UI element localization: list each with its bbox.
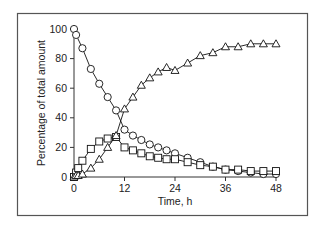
- y-tick-label: 100: [49, 23, 67, 35]
- y-tick-label: 20: [55, 141, 67, 153]
- x-tick-label: 48: [270, 182, 282, 194]
- square-marker: [273, 168, 280, 175]
- square-marker: [75, 165, 82, 172]
- circle-marker: [155, 144, 162, 151]
- circle-marker: [146, 141, 153, 148]
- square-marker: [222, 166, 229, 173]
- square-marker: [96, 138, 103, 145]
- x-tick-label: 24: [169, 182, 181, 194]
- circle-marker: [129, 132, 136, 139]
- y-tick-label: 0: [61, 171, 67, 183]
- y-axis-title: Percentage of total amount: [35, 40, 47, 166]
- square-marker: [129, 147, 136, 154]
- x-axis-title: Time, h: [158, 195, 193, 207]
- y-tick-label: 40: [55, 111, 67, 123]
- square-marker: [79, 157, 86, 164]
- x-tick-label: 36: [220, 182, 232, 194]
- square-marker: [184, 159, 191, 166]
- circle-marker: [138, 136, 145, 143]
- circle-marker: [87, 65, 94, 72]
- y-tick-label: 60: [55, 82, 67, 94]
- square-marker: [172, 156, 179, 163]
- square-marker: [138, 150, 145, 157]
- circle-marker: [163, 147, 170, 154]
- circle-marker: [96, 80, 103, 87]
- y-tick-label: 80: [55, 52, 67, 64]
- circle-marker: [104, 93, 111, 100]
- square-marker: [87, 145, 94, 152]
- square-marker: [155, 154, 162, 161]
- square-marker: [247, 168, 254, 175]
- square-marker: [235, 166, 242, 173]
- square-marker: [104, 135, 111, 142]
- chart: 020406080100012243648 Time, h Percentage…: [0, 0, 322, 229]
- x-tick-label: 12: [119, 182, 131, 194]
- x-tick-label: 0: [71, 182, 77, 194]
- square-marker: [121, 144, 128, 151]
- circle-marker: [121, 126, 128, 133]
- square-marker: [197, 162, 204, 169]
- circle-marker: [112, 107, 119, 114]
- square-marker: [146, 153, 153, 160]
- square-marker: [260, 168, 267, 175]
- square-marker: [209, 163, 216, 170]
- circle-marker: [79, 45, 86, 52]
- square-marker: [163, 156, 170, 163]
- circle-marker: [73, 31, 80, 38]
